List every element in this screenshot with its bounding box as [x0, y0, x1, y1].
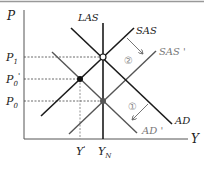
svg-text:P1: P1	[5, 51, 18, 66]
y-prime-label: Y'	[76, 144, 85, 158]
ad-prime-label: AD '	[141, 125, 163, 136]
p0-label: P0	[5, 95, 18, 110]
sas-shift-arrow	[127, 38, 143, 54]
svg-text:YN: YN	[98, 145, 112, 160]
y-axis-label: P	[6, 9, 16, 23]
sas-prime-label: SAS '	[159, 46, 186, 57]
equilibrium-p1-point	[100, 54, 106, 60]
x-axis-label: Y	[191, 132, 200, 146]
svg-text:P0: P0	[5, 95, 18, 110]
step-2-marker: ②	[124, 55, 133, 66]
sas-label: SAS	[136, 25, 157, 36]
ad-label: AD	[174, 115, 190, 126]
p0-prime-label: P0'	[5, 71, 20, 88]
svg-text:P0': P0'	[5, 71, 20, 88]
svg-text:Y': Y'	[76, 144, 85, 158]
p1-label: P1	[5, 51, 18, 66]
y-n-label: YN	[98, 145, 112, 160]
ad-curve	[71, 28, 172, 124]
step-1-marker: ①	[128, 101, 137, 112]
ad-as-diagram: P Y ② ① LAS SAS SAS ' AD AD ' P1 P0' P0 …	[0, 0, 204, 172]
sas-curve	[41, 28, 134, 116]
equilibrium-p0-point	[100, 98, 106, 104]
equilibrium-p0-prime-point	[77, 76, 83, 82]
sas-prime-curve	[69, 51, 156, 134]
las-label: LAS	[77, 12, 99, 23]
